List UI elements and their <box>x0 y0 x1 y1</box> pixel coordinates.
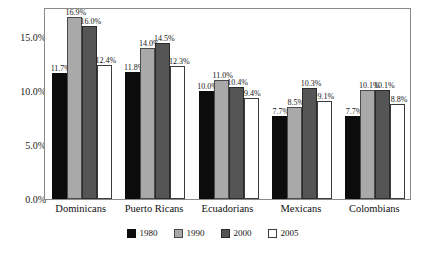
bar-value-label: 14.5% <box>154 35 175 43</box>
bar-ecuadorians-2005: 9.4% <box>244 98 259 199</box>
bar-puerto-ricans-1990: 14.0% <box>140 48 155 199</box>
bar-dominicans-1980: 11.7% <box>52 73 67 199</box>
bar-colombians-2000: 10.1% <box>375 90 390 199</box>
bar-value-label: 10.4% <box>227 79 248 87</box>
legend-item-1990[interactable]: 1990 <box>174 229 205 238</box>
y-tick-label: 0.0% <box>2 195 46 205</box>
legend-swatch-icon <box>127 229 136 238</box>
bar-value-label: 12.4% <box>96 57 117 65</box>
x-axis-label-dominicans: Dominicans <box>44 203 117 215</box>
bar-ecuadorians-2000: 10.4% <box>229 87 244 199</box>
bar-value-label: 10.3% <box>301 80 322 88</box>
legend-swatch-icon <box>221 229 230 238</box>
x-axis-label-ecuadorians: Ecuadorians <box>191 203 264 215</box>
bar-mexicans-2005: 9.1% <box>317 101 332 199</box>
x-axis-label-puerto-ricans: Puerto Ricans <box>117 203 190 215</box>
bar-colombians-1980: 7.7% <box>345 116 360 199</box>
bar-group: 10.0%11.0%10.4%9.4% <box>199 9 259 199</box>
bar-dominicans-1990: 16.9% <box>67 17 82 199</box>
legend-label: 2000 <box>234 229 252 238</box>
chart-legend: 1980199020002005 <box>0 229 425 238</box>
legend-swatch-icon <box>268 229 277 238</box>
y-tick-label: 15.0% <box>2 33 46 43</box>
legend-label: 2005 <box>281 229 299 238</box>
legend-item-1980[interactable]: 1980 <box>127 229 158 238</box>
bar-value-label: 12.3% <box>169 58 190 66</box>
bar-group: 7.7%10.1%10.1%8.8% <box>345 9 405 199</box>
bar-dominicans-2005: 12.4% <box>97 65 112 199</box>
y-tick-label: 5.0% <box>2 141 46 151</box>
bar-dominicans-2000: 16.0% <box>82 26 97 199</box>
y-tick-label: 10.0% <box>2 87 46 97</box>
bar-puerto-ricans-2000: 14.5% <box>155 43 170 199</box>
bar-mexicans-1980: 7.7% <box>272 116 287 199</box>
legend-label: 1990 <box>187 229 205 238</box>
bar-mexicans-1990: 8.5% <box>287 107 302 199</box>
bar-value-label: 8.8% <box>391 96 408 104</box>
legend-item-2005[interactable]: 2005 <box>268 229 299 238</box>
bar-puerto-ricans-2005: 12.3% <box>170 66 185 199</box>
bar-ecuadorians-1990: 11.0% <box>214 80 229 199</box>
x-axis-label-mexicans: Mexicans <box>264 203 337 215</box>
bar-group: 11.8%14.0%14.5%12.3% <box>125 9 185 199</box>
bar-value-label: 10.1% <box>374 82 395 90</box>
bar-group: 7.7%8.5%10.3%9.1% <box>272 9 332 199</box>
x-axis-label-colombians: Colombians <box>338 203 411 215</box>
bar-mexicans-2000: 10.3% <box>302 88 317 199</box>
legend-item-2000[interactable]: 2000 <box>221 229 252 238</box>
legend-swatch-icon <box>174 229 183 238</box>
bar-value-label: 16.0% <box>81 18 102 26</box>
bar-chart: 0.0%5.0%10.0%15.0% 11.7%16.9%16.0%12.4%1… <box>0 0 425 254</box>
legend-label: 1980 <box>140 229 158 238</box>
bar-ecuadorians-1980: 10.0% <box>199 91 214 199</box>
bar-colombians-2005: 8.8% <box>390 104 405 199</box>
bar-value-label: 9.4% <box>244 90 261 98</box>
bar-puerto-ricans-1980: 11.8% <box>125 72 140 199</box>
bar-group: 11.7%16.9%16.0%12.4% <box>52 9 112 199</box>
bar-colombians-1990: 10.1% <box>360 90 375 199</box>
bar-value-label: 9.1% <box>317 93 334 101</box>
plot-area: 11.7%16.9%16.0%12.4%11.8%14.0%14.5%12.3%… <box>44 8 411 200</box>
bar-value-label: 16.9% <box>66 9 87 17</box>
